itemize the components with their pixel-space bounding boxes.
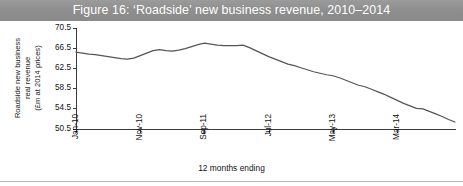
- y-tick-mark: [73, 88, 76, 89]
- x-axis-title: 12 months ending: [0, 163, 463, 173]
- y-axis-title-line-3: (£m at 2014 prices): [33, 26, 137, 130]
- y-axis-title: Roadside new business real revenue (£m a…: [2, 26, 42, 130]
- y-tick-mark: [73, 108, 76, 109]
- y-tick-label-text: 58.5: [44, 83, 71, 92]
- x-tick-label: Mar-14: [392, 114, 402, 160]
- y-tick-label: 54.5: [44, 103, 71, 113]
- bottom-divider: [0, 181, 463, 182]
- y-tick-label-text: 50.5: [44, 124, 71, 133]
- y-tick-label-text: 70.5: [44, 23, 71, 32]
- y-tick-label: 66.5: [44, 43, 71, 53]
- x-tick-label: Jul-12: [264, 114, 274, 160]
- y-tick-label-text: 66.5: [44, 43, 71, 52]
- y-tick-label: 50.5: [44, 124, 71, 134]
- y-tick-label-text: 54.5: [44, 103, 71, 112]
- y-tick-mark: [73, 28, 76, 29]
- x-tick-label: Nov-10: [135, 114, 145, 160]
- y-tick-mark: [73, 68, 76, 69]
- x-tick-label: Sep-11: [199, 114, 209, 160]
- x-tick-label: May-13: [328, 114, 338, 160]
- figure-title: Figure 16: ‘Roadside’ new business reven…: [0, 0, 463, 21]
- figure-container: Figure 16: ‘Roadside’ new business reven…: [0, 0, 463, 186]
- x-tick-label: Jan-10: [71, 114, 81, 160]
- y-tick-label: 58.5: [44, 83, 71, 93]
- y-tick-label-text: 62.5: [44, 63, 71, 72]
- y-tick-label: 70.5: [44, 23, 71, 33]
- y-tick-mark: [73, 48, 76, 49]
- figure-title-banner: Figure 16: ‘Roadside’ new business reven…: [0, 0, 463, 21]
- y-tick-label: 62.5: [44, 63, 71, 73]
